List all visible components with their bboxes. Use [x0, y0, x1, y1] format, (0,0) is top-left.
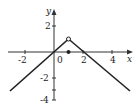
line-branch-right [69, 39, 131, 91]
plot-svg: -2 0 2 4 2 -2 -4 x y [0, 0, 139, 108]
y-tick-label: -4 [40, 95, 49, 105]
y-axis-label: y [45, 6, 52, 16]
x-axis-label: x [127, 54, 132, 64]
line-branch-left [10, 39, 69, 91]
filled-dot-marker [67, 50, 71, 54]
x-tick-label: -2 [18, 55, 27, 65]
y-tick-label: -2 [40, 73, 49, 83]
x-tick-label: 0 [57, 55, 63, 65]
x-tick-label: 4 [110, 55, 116, 65]
y-tick-label: 2 [45, 21, 51, 31]
piecewise-function-graph: -2 0 2 4 2 -2 -4 x y [0, 0, 139, 108]
y-axis-arrow-icon [52, 9, 57, 15]
open-circle-marker [67, 37, 71, 41]
x-tick-label: 2 [81, 55, 87, 65]
